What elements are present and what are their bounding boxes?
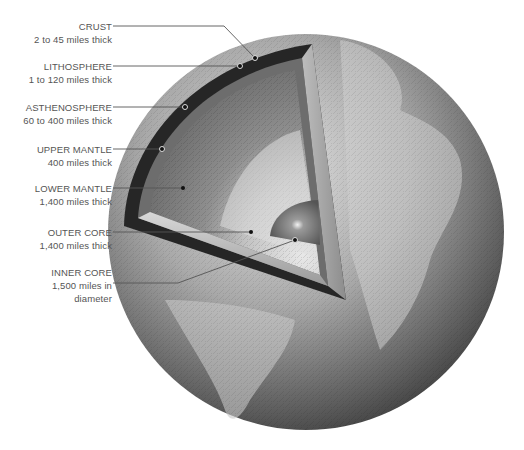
label-lithosphere: LITHOSPHERE 1 to 120 miles thick [29,60,112,86]
label-name: UPPER MANTLE [37,143,112,156]
label-inner-core: INNER CORE 1,500 miles in diameter [51,266,112,305]
label-desc: 1,400 miles thick [40,239,112,252]
label-desc: 1 to 120 miles thick [29,73,112,86]
label-name: INNER CORE [51,266,112,279]
earth-cutaway-figure: CRUST 2 to 45 miles thick LITHOSPHERE 1 … [0,0,524,450]
label-desc: 1,500 miles in [51,279,112,292]
label-outer-core: OUTER CORE 1,400 miles thick [40,226,112,252]
label-name: ASTHENOSPHERE [23,101,112,114]
label-desc-2: diameter [51,292,112,305]
label-crust: CRUST 2 to 45 miles thick [34,20,112,46]
label-asthenosphere: ASTHENOSPHERE 60 to 400 miles thick [23,101,112,127]
label-lower-mantle: LOWER MANTLE 1,400 miles thick [35,182,112,208]
label-name: LOWER MANTLE [35,182,112,195]
label-desc: 2 to 45 miles thick [34,33,112,46]
label-name: OUTER CORE [40,226,112,239]
label-name: CRUST [34,20,112,33]
label-upper-mantle: UPPER MANTLE 400 miles thick [37,143,112,169]
label-desc: 60 to 400 miles thick [23,114,112,127]
label-desc: 1,400 miles thick [35,195,112,208]
label-desc: 400 miles thick [37,156,112,169]
label-name: LITHOSPHERE [29,60,112,73]
